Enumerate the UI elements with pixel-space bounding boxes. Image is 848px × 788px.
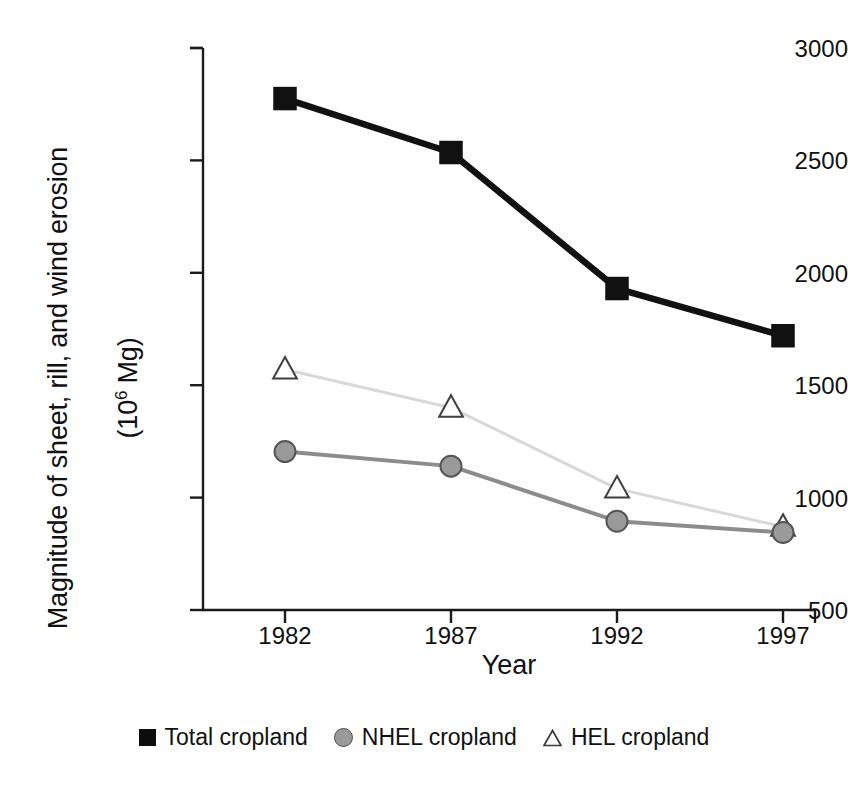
data-point-nhel-cropland-1987 (441, 456, 462, 477)
legend-label-total-cropland: Total cropland (165, 724, 308, 751)
series-line-nhel-cropland (285, 452, 783, 533)
square-marker-icon (139, 729, 156, 746)
data-point-hel-cropland-1992 (605, 476, 629, 498)
chart-figure: Magnitude of sheet, rill, and wind erosi… (0, 0, 848, 788)
data-point-nhel-cropland-1997 (773, 522, 794, 543)
axis-spine (203, 48, 815, 610)
data-point-total-cropland-1997 (772, 325, 794, 347)
circle-marker-icon (334, 728, 353, 747)
x-axis-title: Year (203, 650, 815, 681)
legend-item-nhel-cropland: NHEL cropland (334, 724, 517, 751)
data-point-total-cropland-1987 (440, 142, 462, 164)
legend-item-total-cropland: Total cropland (139, 724, 308, 751)
data-point-total-cropland-1982 (274, 88, 296, 110)
legend-label-hel-cropland: HEL cropland (571, 724, 710, 751)
legend-label-nhel-cropland: NHEL cropland (362, 724, 517, 751)
data-point-hel-cropland-1982 (273, 357, 297, 379)
series-line-hel-cropland (285, 369, 783, 526)
legend-item-hel-cropland: HEL cropland (543, 724, 710, 751)
data-point-nhel-cropland-1992 (607, 511, 628, 532)
series-line-total-cropland (285, 99, 783, 336)
chart-legend: Total cropland NHEL cropland HEL croplan… (0, 724, 848, 751)
data-point-nhel-cropland-1982 (275, 441, 296, 462)
triangle-marker-icon (543, 729, 562, 746)
data-point-total-cropland-1992 (606, 278, 628, 300)
